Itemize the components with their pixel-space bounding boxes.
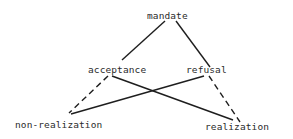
node-mandate: mandate	[147, 11, 188, 21]
edge-refusal-realization	[209, 76, 240, 122]
edge-refusal-non-realization	[71, 76, 204, 114]
diagram: mandate acceptance refusal non-realizati…	[0, 0, 293, 139]
edge-acceptance-non-realization	[69, 76, 108, 113]
node-refusal: refusal	[186, 65, 227, 75]
node-realization: realization	[205, 122, 269, 132]
edge-mandate-acceptance	[122, 21, 165, 60]
edge-acceptance-realization	[112, 76, 233, 120]
edge-mandate-refusal	[176, 21, 210, 67]
node-non-realization: non-realization	[15, 120, 102, 130]
node-acceptance: acceptance	[88, 65, 146, 75]
